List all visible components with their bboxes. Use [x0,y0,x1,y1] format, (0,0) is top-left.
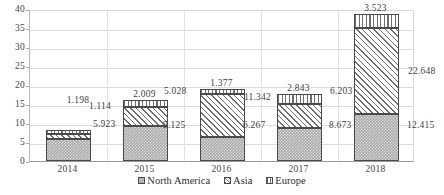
bar-group-2015[interactable] [123,9,168,161]
bar-segment-asia-2018[interactable] [354,28,399,114]
bar-segment-europe-2018[interactable] [354,14,399,27]
bar-segment-asia-2015[interactable] [123,107,168,126]
y-axis-tick-label: 0 [0,157,25,167]
legend-label-north-america: North America [147,175,210,186]
legend-item-asia[interactable]: Asia [224,175,252,186]
bar-group-2014[interactable] [46,9,91,161]
y-axis-tick-label: 30 [0,43,25,53]
legend-label-europe: Europe [275,175,305,186]
bar-segment-north-america-2016[interactable] [200,137,245,161]
chart-legend: North America Asia Europe [0,175,444,186]
data-label-north-america-2016: 6.267 [243,120,265,130]
bar-segment-north-america-2014[interactable] [46,139,91,162]
x-axis-tick-label-2018: 2018 [351,164,401,175]
y-axis-tick-label: 15 [0,100,25,110]
y-axis-tick-label: 10 [0,119,25,129]
data-label-asia-2018: 22.648 [408,66,435,76]
bar-group-2018[interactable] [354,9,399,161]
data-label-europe-2017: 2.843 [281,83,317,93]
x-axis-tick-label-2016: 2016 [197,164,247,175]
legend-swatch-north-america-icon [138,177,145,184]
y-axis-tick-label: 20 [0,81,25,91]
bar-segment-europe-2017[interactable] [277,94,322,105]
data-label-north-america-2014: 5.923 [93,119,115,129]
data-label-asia-2014: 1.114 [89,101,111,111]
bar-segment-asia-2014[interactable] [46,134,91,138]
y-axis-tick-label: 5 [0,138,25,148]
legend-swatch-asia-icon [224,177,231,184]
data-label-europe-2015: 2.009 [127,89,163,99]
x-axis-tick-label-2014: 2014 [43,164,93,175]
legend-label-asia: Asia [233,175,252,186]
legend-item-europe[interactable]: Europe [266,175,305,186]
x-axis-tick-label-2017: 2017 [274,164,324,175]
data-label-europe-2018: 3.523 [358,3,394,13]
data-label-asia-2016: 11.342 [244,92,271,102]
y-axis-tick-label: 40 [0,5,25,15]
data-label-north-america-2018: 12.415 [407,120,434,130]
bar-segment-europe-2014[interactable] [46,130,91,135]
y-axis-tick-label: 35 [0,24,25,34]
bar-segment-europe-2015[interactable] [123,100,168,108]
bar-segment-europe-2016[interactable] [200,89,245,94]
bar-segment-north-america-2015[interactable] [123,126,168,161]
data-label-north-america-2017: 8.673 [329,120,351,130]
legend-swatch-europe-icon [266,177,273,184]
bar-segment-asia-2017[interactable] [277,104,322,128]
data-label-europe-2016: 1.377 [204,78,240,88]
bar-segment-north-america-2017[interactable] [277,128,322,161]
bar-segment-north-america-2018[interactable] [354,114,399,161]
gridline-vertical [261,11,262,161]
data-label-asia-2017: 6.203 [330,86,352,96]
gridline-vertical [107,11,108,161]
data-label-asia-2015: 5.028 [164,86,186,96]
x-axis-tick-label-2015: 2015 [120,164,170,175]
y-axis-tick-label: 25 [0,62,25,72]
y-axis-tick-mark [26,162,29,163]
legend-item-north-america[interactable]: North America [138,175,210,186]
bar-segment-asia-2016[interactable] [200,94,245,137]
stacked-bar-chart: 0510152025303540 1.1981.1145.9232.0095.0… [0,0,444,195]
data-label-north-america-2015: 9.125 [163,120,185,130]
